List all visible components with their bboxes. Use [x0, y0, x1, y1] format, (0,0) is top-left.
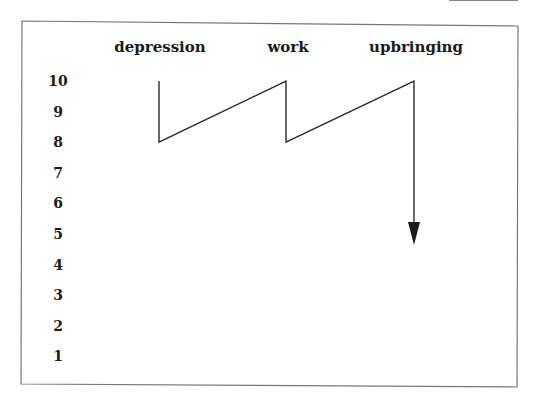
y-tick-6: 6 — [53, 195, 63, 211]
column-labels: depressionworkupbringing — [114, 38, 463, 56]
column-label-upbringing: upbringing — [369, 38, 463, 56]
y-tick-7: 7 — [53, 165, 63, 181]
diagram-frame — [21, 21, 518, 387]
y-tick-1: 1 — [53, 348, 63, 364]
y-tick-9: 9 — [53, 104, 63, 120]
y-tick-4: 4 — [53, 257, 63, 273]
mood-sawtooth-diagram: depressionworkupbringing 10987654321 — [0, 0, 539, 406]
arrow-down-icon — [408, 222, 420, 245]
y-tick-2: 2 — [53, 318, 63, 334]
diagram-container: depressionworkupbringing 10987654321 — [0, 0, 539, 406]
y-axis-labels: 10987654321 — [48, 73, 68, 364]
y-tick-3: 3 — [53, 287, 63, 303]
y-tick-8: 8 — [53, 134, 63, 150]
column-label-work: work — [266, 38, 309, 56]
column-label-depression: depression — [114, 38, 206, 56]
y-tick-10: 10 — [48, 73, 68, 89]
sawtooth-line — [159, 81, 414, 224]
y-tick-5: 5 — [53, 226, 63, 242]
